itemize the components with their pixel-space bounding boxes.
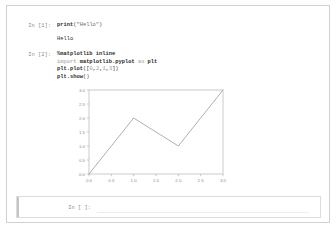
cell-3-code-editor[interactable] bbox=[97, 204, 309, 213]
code-token: %matplotlib inline bbox=[57, 51, 115, 57]
cell-2-input-area[interactable]: %matplotlib inlineimport matplotlib.pypl… bbox=[57, 51, 330, 81]
cell-1-prompt-label: In [1]: bbox=[7, 22, 57, 30]
notebook-cell-3-selected[interactable]: In [ ]: bbox=[16, 196, 321, 218]
code-line: plt.plot([0,2,1,3]) bbox=[57, 66, 330, 74]
chart-ytick-label: 0.5 bbox=[79, 158, 86, 163]
chart-data-line bbox=[89, 90, 223, 174]
chart-xtick-label: 1.5 bbox=[153, 178, 160, 183]
chart-ytick-label: 2.0 bbox=[79, 116, 86, 121]
cell-1-output-body: Hello bbox=[57, 36, 330, 44]
code-token: plt bbox=[148, 59, 158, 65]
chart-xtick-label: 3.0 bbox=[220, 178, 227, 183]
code-line: plt.show() bbox=[57, 74, 330, 82]
cell-3-prompt-label: In [ ]: bbox=[17, 204, 97, 212]
code-token: import bbox=[57, 59, 80, 65]
code-token: matplotlib.pyplot bbox=[80, 59, 135, 65]
code-line: print("Hello") bbox=[57, 22, 330, 30]
code-token: print bbox=[57, 22, 73, 28]
cell-2-prompt-label: In [2]: bbox=[7, 51, 57, 59]
code-token: ) bbox=[99, 22, 102, 28]
code-token: ]) bbox=[112, 66, 118, 72]
chart-ytick-label: 2.5 bbox=[79, 102, 86, 107]
chart-xtick-label: 0.0 bbox=[86, 178, 93, 183]
chart-ytick-label: 0.0 bbox=[79, 172, 86, 177]
chart-xtick-label: 2.0 bbox=[175, 178, 182, 183]
cell-2-figure-output: 0.00.51.01.52.02.53.00.00.51.01.52.02.53… bbox=[57, 84, 229, 194]
code-line: import matplotlib.pyplot as plt bbox=[57, 59, 330, 67]
cell-1-output: Hello bbox=[7, 36, 330, 44]
cell-2-code[interactable]: %matplotlib inlineimport matplotlib.pypl… bbox=[57, 51, 330, 81]
code-token: () bbox=[83, 74, 89, 80]
notebook-cell-3[interactable]: In [ ]: bbox=[17, 204, 317, 213]
chart-ytick-label: 3.0 bbox=[79, 88, 86, 93]
notebook-cell-1[interactable]: In [1]: print("Hello") bbox=[7, 22, 330, 30]
cell-1-output-prompt-spacer bbox=[7, 36, 57, 37]
chart-ytick-label: 1.0 bbox=[79, 144, 86, 149]
chart-xtick-label: 0.5 bbox=[108, 178, 115, 183]
code-token: as bbox=[135, 59, 148, 65]
code-line: %matplotlib inline bbox=[57, 51, 330, 59]
chart-xtick-label: 2.5 bbox=[198, 178, 205, 183]
cell-1-stdout-text: Hello bbox=[57, 36, 330, 44]
cell-3-input-area[interactable] bbox=[97, 204, 317, 213]
code-token: "Hello" bbox=[76, 22, 99, 28]
cell-1-code[interactable]: print("Hello") bbox=[57, 22, 330, 30]
matplotlib-figure: 0.00.51.01.52.02.53.00.00.51.01.52.02.53… bbox=[57, 84, 229, 194]
notebook-cell-2[interactable]: In [2]: %matplotlib inlineimport matplot… bbox=[7, 51, 330, 81]
code-token: plt.show bbox=[57, 74, 83, 80]
code-token: plt.plot bbox=[57, 66, 83, 72]
cell-1-input-area[interactable]: print("Hello") bbox=[57, 22, 330, 30]
notebook-frame: In [1]: print("Hello") Hello In [2]: %ma… bbox=[6, 5, 330, 223]
chart-xtick-label: 1.0 bbox=[131, 178, 138, 183]
chart-ytick-label: 1.5 bbox=[79, 130, 86, 135]
